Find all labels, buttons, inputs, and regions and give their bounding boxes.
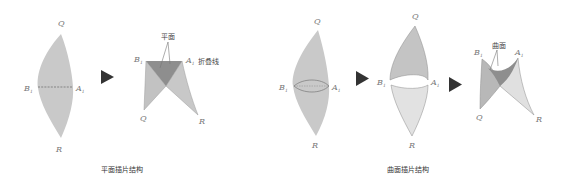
label-b1: B1 [23,84,33,94]
label-b1: B1 [133,55,143,65]
label-q: Q [412,12,419,21]
arrow-right-icon [449,77,462,92]
plane-label: 平面 [161,33,175,41]
leader-line-2 [168,42,170,64]
right-wing [500,58,534,115]
label-q: Q [314,17,321,26]
label-a1: A1 [331,83,341,93]
label-b1: B1 [376,78,386,88]
arrow-right-icon [101,70,114,84]
label-a1: A1 [185,56,195,66]
arrow-right-icon [356,71,369,86]
leader-line-2 [497,50,498,66]
label-a1: A1 [430,78,440,88]
curved-insert-piece: Q R B1 A1 [278,17,341,150]
label-b1: B1 [473,48,483,58]
label-r: R [535,115,542,124]
lower-half [391,85,428,136]
label-r: R [311,141,318,150]
fold-line-label: 折叠线 [198,57,219,66]
folded-flat-insert: 平面 折叠线 B1 A1 Q R [133,33,219,126]
surface-label: 曲面 [492,41,506,50]
caption-flat-insert: 平面插片结构 [101,165,143,174]
left-wing [480,59,500,109]
lens-shape [38,34,74,138]
label-a1: A1 [75,84,85,94]
label-q: Q [58,19,65,28]
label-a1: A1 [514,48,524,58]
label-b1: B1 [278,83,288,93]
label-r: R [55,145,62,154]
label-r: R [198,117,205,126]
split-curved-insert: Q R B1 A1 [376,12,440,150]
caption-curved-insert: 曲面插片结构 [387,165,429,174]
label-r: R [408,141,415,150]
label-q: Q [476,113,483,122]
upper-half [390,26,428,80]
insert-structure-diagram: Q R B1 A1 平面 折叠线 B1 A1 Q R 平面插片结构 Q R B1… [0,0,564,186]
folded-curved-insert: 曲面 B1 A1 Q R [473,41,542,124]
leader-line-1 [490,50,497,70]
label-q: Q [140,114,147,123]
flat-insert-piece: Q R B1 A1 [23,19,85,154]
